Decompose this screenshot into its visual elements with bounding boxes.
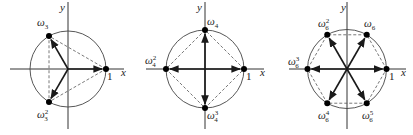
y-axis-label: y	[196, 1, 202, 13]
root-label: ω23	[37, 108, 49, 123]
panel-n4: xy1ω4ω24ω34	[145, 1, 265, 129]
x-axis-label: x	[400, 66, 406, 78]
x-axis-label: x	[120, 66, 126, 78]
root-vector	[347, 69, 365, 100]
root-vector	[51, 69, 68, 98]
root-label: ω26	[318, 17, 330, 32]
root-label: ω3	[37, 16, 49, 31]
root-label: ω34	[207, 109, 219, 124]
root-point	[364, 32, 370, 38]
root-point	[364, 100, 370, 106]
root-label: ω4	[207, 15, 219, 30]
root-point	[324, 32, 330, 38]
y-axis-label: y	[59, 1, 65, 13]
one-label: 1	[246, 70, 252, 82]
root-vector	[51, 40, 68, 69]
roots-of-unity-figure: xy1ω3ω23 xy1ω4ω24ω34 xy1ω6ω26ω36ω46ω56	[0, 0, 413, 135]
root-label: ω36	[288, 55, 300, 70]
panel-n3: xy1ω3ω23	[10, 1, 126, 129]
root-point	[46, 99, 52, 105]
root-point	[163, 66, 169, 72]
one-label: 1	[389, 70, 395, 82]
root-point	[46, 33, 52, 39]
panel-n6: xy1ω6ω26ω36ω46ω56	[288, 1, 406, 129]
root-point	[305, 66, 311, 72]
x-axis-label: x	[259, 66, 265, 78]
root-label: ω46	[318, 109, 330, 124]
root-label: ω6	[364, 17, 376, 32]
root-vector	[329, 38, 347, 69]
root-vector	[329, 69, 347, 100]
root-point	[202, 27, 208, 33]
root-label: ω56	[362, 109, 374, 124]
root-label: ω24	[145, 54, 157, 69]
root-point	[324, 100, 330, 106]
y-axis-label: y	[340, 1, 346, 13]
one-label: 1	[107, 70, 113, 82]
root-vector	[347, 38, 365, 69]
